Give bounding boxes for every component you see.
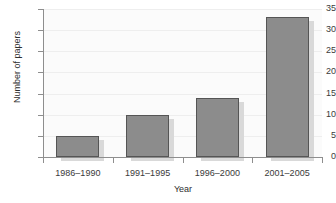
x-tick — [252, 158, 253, 163]
x-tick — [322, 158, 323, 163]
y-tick-label: 5 — [302, 131, 336, 140]
x-tick — [183, 158, 184, 163]
bar — [56, 136, 99, 157]
y-tick-label: 20 — [302, 67, 336, 76]
x-tick-label: 1996–2000 — [183, 168, 253, 178]
y-tick-label: 25 — [302, 46, 336, 55]
bar — [196, 98, 239, 157]
x-tick — [43, 158, 44, 163]
x-axis-line — [43, 157, 323, 158]
y-tick-label: 30 — [302, 25, 336, 34]
bar-chart: 05101520253035 1986–19901991–19951996–20… — [0, 0, 336, 203]
y-axis-title: Number of papers — [12, 7, 22, 127]
x-axis-title: Year — [43, 184, 323, 194]
bar — [126, 115, 169, 157]
y-tick-label: 10 — [302, 110, 336, 119]
y-axis-line — [43, 9, 44, 158]
x-tick-label: 2001–2005 — [252, 168, 322, 178]
y-tick-label: 15 — [302, 89, 336, 98]
y-tick-label: 35 — [302, 4, 336, 13]
gridline — [43, 9, 322, 10]
x-tick-label: 1986–1990 — [43, 168, 113, 178]
x-tick-label: 1991–1995 — [113, 168, 183, 178]
x-tick — [113, 158, 114, 163]
